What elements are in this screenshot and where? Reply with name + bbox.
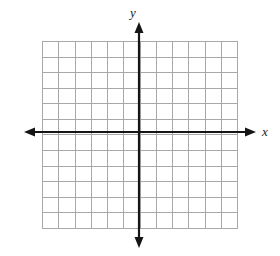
coordinate-plane-figure (0, 0, 280, 256)
y-axis-label: y (130, 6, 136, 19)
x-axis-label: x (262, 125, 268, 138)
